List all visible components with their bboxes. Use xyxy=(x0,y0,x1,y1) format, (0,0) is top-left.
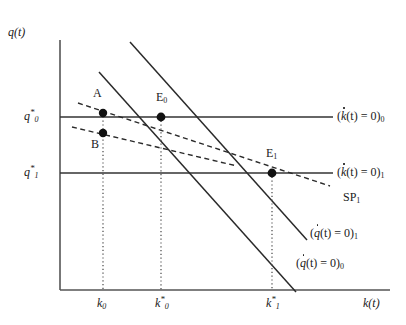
x-tick-k1-star: k*1 xyxy=(266,297,280,309)
point-E1 xyxy=(268,169,277,178)
point-B xyxy=(99,129,107,137)
qdot-zero-line-0 xyxy=(130,42,307,240)
y-axis-label: q(t) xyxy=(8,26,25,38)
diagram-canvas xyxy=(0,0,406,325)
point-A xyxy=(99,109,107,117)
economics-phase-diagram: q(t) k(t) q*0 q*1 k0 k*0 k*1 A B E0 E1 (… xyxy=(0,0,406,325)
point-label-E1: E1 xyxy=(266,147,277,159)
point-E0 xyxy=(157,113,166,122)
point-label-E0: E0 xyxy=(156,91,167,103)
qdot-zero-line-1 xyxy=(99,72,296,292)
point-label-A: A xyxy=(93,87,102,99)
curve-label-sp1: SP1 xyxy=(343,191,360,203)
curve-label-kdot-zero-1: (k(t) = 0)1 xyxy=(337,166,384,178)
curve-label-qdot-zero-0: (q(t) = 0)0 xyxy=(296,257,344,269)
curve-label-kdot-zero-0: (k(t) = 0)0 xyxy=(337,110,384,122)
y-tick-q0-star: q*0 xyxy=(24,110,39,122)
curve-label-qdot-zero-1: (q(t) = 0)1 xyxy=(310,227,358,239)
x-tick-k0-star: k*0 xyxy=(155,297,169,309)
x-tick-k0: k0 xyxy=(97,297,106,309)
y-tick-q1-star: q*1 xyxy=(24,166,39,178)
x-axis-label: k(t) xyxy=(363,297,380,309)
point-label-B: B xyxy=(91,138,99,150)
